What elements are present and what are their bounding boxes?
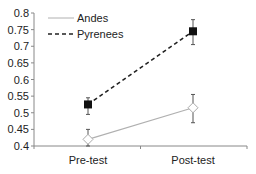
x-category-label: Pre-test [69,154,108,166]
series-line [88,31,193,104]
x-axis: Pre-testPost-test [34,146,247,166]
series-line [88,108,193,140]
y-tick-label: 0.45 [8,123,29,135]
y-tick-label: 0.8 [14,7,29,19]
y-tick-label: 0.4 [14,140,29,152]
y-tick-label: 0.6 [14,74,29,86]
square-marker [84,100,92,108]
legend-label-pyrenees: Pyrenees [77,28,124,40]
legend: Andes Pyrenees [48,12,124,40]
line-chart: 0.80.750.70.650.60.550.50.450.4 Pre-test… [0,0,256,174]
x-category-label: Post-test [171,154,214,166]
series-andes [83,94,198,146]
diamond-marker [188,103,198,113]
diamond-marker [83,134,93,144]
y-tick-label: 0.75 [8,24,29,36]
legend-label-andes: Andes [77,12,109,24]
square-marker [189,27,197,35]
y-tick-label: 0.7 [14,40,29,52]
y-tick-label: 0.65 [8,57,29,69]
y-axis: 0.80.750.70.650.60.550.50.450.4 [8,7,34,152]
y-tick-label: 0.55 [8,90,29,102]
y-tick-label: 0.5 [14,107,29,119]
